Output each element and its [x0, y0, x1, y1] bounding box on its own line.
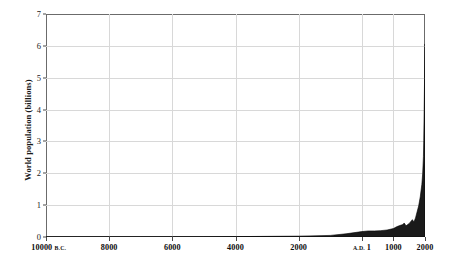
x-tick-mark [362, 237, 363, 241]
plot-area: 0123456710000 B.C.8000600040002000A.D. 1… [46, 14, 425, 237]
x-tick-label: 8000 [101, 243, 118, 252]
world-population-chart: World population (billions) 012345671000… [0, 0, 453, 270]
x-tick-mark [46, 237, 47, 241]
x-tick-mark [109, 237, 110, 241]
x-tick-label: 6000 [164, 243, 181, 252]
y-tick-label: 6 [37, 41, 41, 51]
population-area-path [46, 44, 425, 237]
x-tick-label: 2000 [417, 243, 434, 252]
x-tick-mark [425, 237, 426, 241]
x-tick-mark [299, 237, 300, 241]
x-tick-label: 1000 [385, 243, 402, 252]
y-tick-label: 1 [37, 200, 41, 210]
x-tick-mark [172, 237, 173, 241]
population-area-series [46, 14, 425, 237]
x-tick-label: A.D. 1 [353, 243, 371, 252]
x-tick-mark [236, 237, 237, 241]
x-tick-mark [393, 237, 394, 241]
y-tick-label: 2 [37, 168, 41, 178]
y-tick-label: 7 [37, 9, 41, 19]
x-tick-label: 2000 [290, 243, 307, 252]
y-tick-label: 4 [37, 105, 41, 115]
y-tick-label: 5 [37, 73, 41, 83]
y-axis-title: World population (billions) [23, 50, 33, 210]
y-tick-label: 3 [37, 136, 41, 146]
y-tick-label: 0 [37, 232, 41, 242]
x-tick-label: 10000 B.C. [31, 243, 66, 252]
x-tick-label: 4000 [227, 243, 244, 252]
